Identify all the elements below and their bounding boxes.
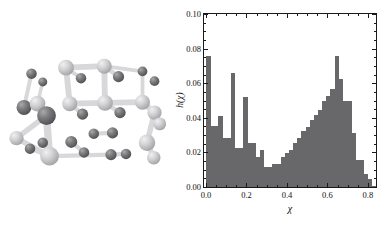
y-tick-label: 0.06 xyxy=(180,78,201,88)
x-minor-tick xyxy=(236,185,237,187)
molecular-structure-panel xyxy=(0,0,180,229)
y-minor-tick xyxy=(204,75,206,76)
x-minor-tick xyxy=(348,185,349,187)
y-minor-tick-right xyxy=(374,31,376,32)
y-minor-tick-right xyxy=(374,101,376,102)
atom-sphere-light xyxy=(62,96,77,111)
x-minor-tick xyxy=(358,185,359,187)
y-tick-label: 0.08 xyxy=(180,44,201,54)
y-major-tick xyxy=(204,118,208,119)
atom-sphere-dark xyxy=(89,128,100,139)
x-major-tick-top xyxy=(368,14,369,18)
x-major-tick xyxy=(327,183,328,187)
y-major-tick xyxy=(204,49,208,50)
atom-sphere-light xyxy=(135,95,150,110)
x-major-tick-top xyxy=(246,14,247,18)
y-minor-tick xyxy=(204,109,206,110)
molecule-svg xyxy=(0,0,180,229)
x-minor-tick-top xyxy=(358,14,359,16)
atom-group xyxy=(9,59,166,166)
atom-sphere-dark xyxy=(79,147,90,158)
y-tick-label: 0.04 xyxy=(180,113,201,123)
y-minor-tick xyxy=(204,178,206,179)
y-minor-tick xyxy=(204,144,206,145)
x-minor-tick-top xyxy=(338,14,339,16)
y-minor-tick xyxy=(204,66,206,67)
atom-sphere-dark xyxy=(25,143,36,154)
x-minor-tick xyxy=(317,185,318,187)
y-minor-tick-right xyxy=(374,109,376,110)
y-minor-tick-right xyxy=(374,57,376,58)
x-minor-tick xyxy=(257,185,258,187)
y-major-tick xyxy=(204,83,208,84)
x-minor-tick xyxy=(216,185,217,187)
y-major-tick-right xyxy=(372,49,376,50)
x-minor-tick-top xyxy=(297,14,298,16)
y-major-tick-right xyxy=(372,187,376,188)
x-minor-tick xyxy=(226,185,227,187)
atom-sphere-dark xyxy=(26,68,37,79)
y-major-tick-right xyxy=(372,152,376,153)
x-minor-tick xyxy=(307,185,308,187)
y-major-tick xyxy=(204,152,208,153)
x-minor-tick-top xyxy=(277,14,278,16)
atom-sphere-dark xyxy=(107,127,118,138)
x-major-tick-top xyxy=(327,14,328,18)
atom-sphere-dark xyxy=(77,109,88,120)
atom-sphere-dark xyxy=(114,107,125,118)
y-minor-tick xyxy=(204,126,206,127)
atom-sphere-light xyxy=(97,59,112,74)
y-minor-tick xyxy=(204,92,206,93)
y-major-tick-right xyxy=(372,83,376,84)
histogram-bars xyxy=(204,14,376,187)
y-minor-tick-right xyxy=(374,135,376,136)
x-minor-tick-top xyxy=(317,14,318,16)
y-minor-tick-right xyxy=(374,170,376,171)
atom-sphere-light xyxy=(40,147,59,166)
atom-sphere-light xyxy=(9,131,23,145)
x-major-tick xyxy=(368,183,369,187)
atom-sphere-dark xyxy=(17,100,32,115)
x-tick-label: 0.2 xyxy=(241,190,252,200)
y-minor-tick xyxy=(204,23,206,24)
x-minor-tick xyxy=(287,185,288,187)
atom-sphere-dark xyxy=(121,149,132,160)
y-minor-tick xyxy=(204,40,206,41)
atom-sphere-dark xyxy=(105,149,116,160)
atom-sphere-light xyxy=(58,60,74,76)
y-minor-tick xyxy=(204,161,206,162)
y-minor-tick xyxy=(204,101,206,102)
x-minor-tick-top xyxy=(287,14,288,16)
x-minor-tick-top xyxy=(348,14,349,16)
atom-sphere-light xyxy=(153,118,166,131)
x-minor-tick-top xyxy=(267,14,268,16)
y-minor-tick-right xyxy=(374,126,376,127)
y-minor-tick xyxy=(204,31,206,32)
x-tick-label: 0.4 xyxy=(282,190,293,200)
atom-sphere-dark xyxy=(38,77,47,86)
y-major-tick xyxy=(204,187,208,188)
y-minor-tick-right xyxy=(374,178,376,179)
y-minor-tick xyxy=(204,135,206,136)
y-minor-tick-right xyxy=(374,144,376,145)
y-axis-title: h(χ) xyxy=(175,92,185,107)
x-tick-label: 0.8 xyxy=(363,190,374,200)
x-minor-tick-top xyxy=(257,14,258,16)
y-tick-label: 0.10 xyxy=(180,9,201,19)
y-tick-label: 0.00 xyxy=(180,182,201,192)
y-minor-tick-right xyxy=(374,75,376,76)
y-minor-tick xyxy=(204,57,206,58)
x-minor-tick xyxy=(277,185,278,187)
atom-sphere-dark xyxy=(138,67,148,77)
x-minor-tick-top xyxy=(216,14,217,16)
y-major-tick-right xyxy=(372,118,376,119)
x-minor-tick xyxy=(297,185,298,187)
atom-sphere-dark xyxy=(150,76,160,86)
x-tick-label: 0.0 xyxy=(201,190,212,200)
x-minor-tick xyxy=(267,185,268,187)
x-minor-tick-top xyxy=(226,14,227,16)
y-major-tick-right xyxy=(372,14,376,15)
y-minor-tick xyxy=(204,170,206,171)
x-minor-tick-top xyxy=(236,14,237,16)
y-minor-tick-right xyxy=(374,23,376,24)
